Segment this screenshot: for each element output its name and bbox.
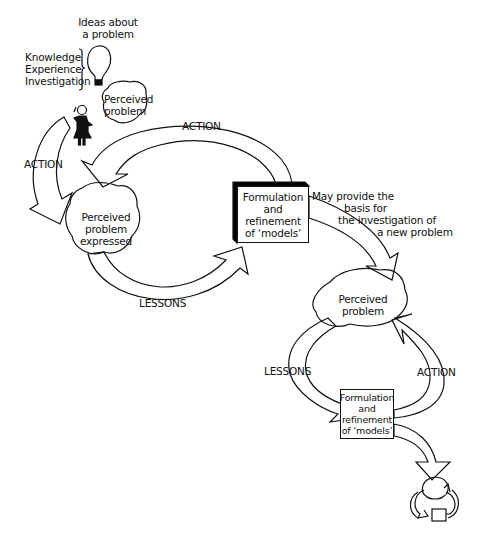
link-note: May provide the basis for the investigat… <box>312 190 436 238</box>
perceived-problem-expressed-label: Perceived problem expressed <box>78 211 134 247</box>
mini-cycle-icon <box>411 477 459 521</box>
action-top-label: ACTION <box>182 120 221 132</box>
lessons-arrow-top <box>88 247 248 299</box>
mini-cycle-arrow <box>394 424 450 480</box>
label-line: Perceived <box>338 293 388 305</box>
box-line: Formulation <box>340 392 394 403</box>
label-line: problem <box>338 305 388 317</box>
action-bottom-label: ACTION <box>417 366 456 378</box>
note-line: a new problem <box>312 226 436 238</box>
note-line: basis for <box>312 202 436 214</box>
source-knowledge: Knowledge <box>25 51 91 63</box>
note-line: May provide the <box>312 190 436 202</box>
action-arrow-top <box>82 126 292 187</box>
box-line: refinement <box>245 215 301 227</box>
idea-caption-line: a problem <box>73 28 143 40</box>
perceived-problem-bottom-label: Perceived problem <box>338 293 388 317</box>
note-line: the investigation of <box>312 214 436 226</box>
box-line: Formulation <box>243 191 303 203</box>
box-line: and <box>358 403 375 414</box>
label-line: Perceived <box>78 211 134 223</box>
label-line: Perceived <box>104 93 146 105</box>
lessons-top-label: LESSONS <box>139 297 186 309</box>
label-line: problem <box>78 223 134 235</box>
box-line: of ‘models’ <box>245 227 301 239</box>
action-left-label: ACTION <box>24 158 63 170</box>
perceived-problem-label: Perceived problem <box>104 93 146 117</box>
sources-list: Knowledge Experience Investigation <box>25 51 91 87</box>
label-line: expressed <box>78 235 134 247</box>
idea-caption: Ideas about a problem <box>73 16 143 40</box>
label-line: problem <box>104 105 146 117</box>
source-investigation: Investigation <box>25 75 91 87</box>
box-line: and <box>263 203 282 215</box>
box-line: refinement <box>342 414 392 425</box>
lessons-bottom-label: LESSONS <box>264 365 311 377</box>
action-arrow-left <box>30 117 72 224</box>
model-box-bottom: Formulation and refinement of ‘models’ <box>340 389 394 439</box>
person-thinking-icon <box>74 106 92 146</box>
lightbulb-icon <box>88 46 111 85</box>
model-box-top: Formulation and refinement of ‘models’ <box>237 186 309 243</box>
idea-caption-line: Ideas about <box>73 16 143 28</box>
box-line: of ‘models’ <box>342 425 393 436</box>
source-experience: Experience <box>25 63 91 75</box>
